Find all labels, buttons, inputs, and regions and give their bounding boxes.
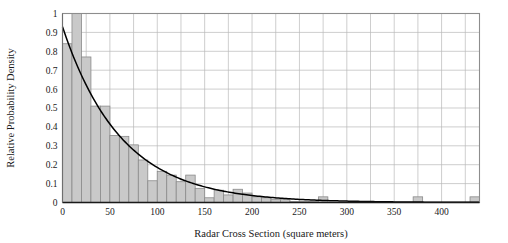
x-tick-label: 0 [60,207,65,217]
y-tick-label: 0.7 [46,66,58,76]
x-axis-ticks: 050100150200250300350400 [60,207,449,217]
x-tick-label: 250 [292,207,307,217]
y-tick-label: 0.1 [46,179,58,189]
x-tick-label: 100 [150,207,165,217]
y-tick-label: 0.4 [46,122,58,132]
x-tick-label: 200 [245,207,260,217]
y-tick-label: 1 [53,9,58,19]
x-tick-label: 400 [434,207,449,217]
y-tick-label: 0.5 [46,103,58,113]
x-tick-label: 350 [387,207,402,217]
y-tick-label: 0.6 [46,85,58,95]
y-axis-ticks: 00.10.20.30.40.50.60.70.80.91 [46,9,58,208]
y-tick-label: 0.8 [46,47,58,57]
histogram-plot: 050100150200250300350400 00.10.20.30.40.… [0,0,508,243]
y-tick-label: 0.9 [46,28,58,38]
y-tick-label: 0.3 [46,141,58,151]
y-tick-label: 0.2 [46,160,58,170]
x-axis-label: Radar Cross Section (square meters) [194,228,348,240]
y-tick-label: 0 [53,198,58,208]
chart-figure: 050100150200250300350400 00.10.20.30.40.… [0,0,508,243]
x-tick-label: 300 [340,207,355,217]
x-tick-label: 50 [105,207,115,217]
x-tick-label: 150 [198,207,213,217]
y-axis-label: Relative Probability Density [5,47,16,167]
